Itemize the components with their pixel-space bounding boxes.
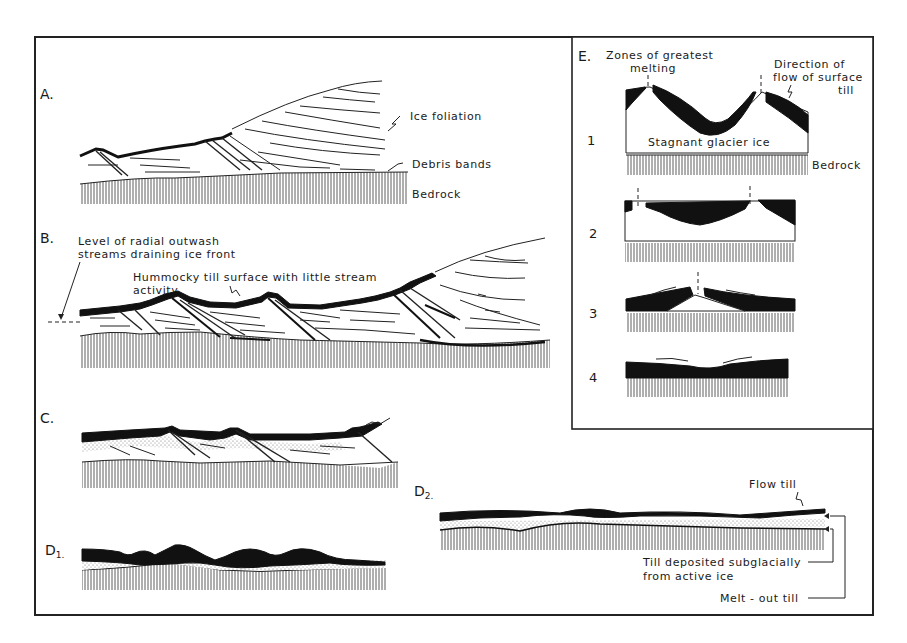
panel-c: C.	[40, 410, 398, 488]
bedrock-label-e: Bedrock	[812, 159, 861, 172]
ice-foliation-label: Ice foliation	[410, 110, 482, 123]
panel-e-label: E.	[578, 48, 591, 64]
stage-1-number: 1	[587, 133, 595, 148]
outwash-label-line2: streams draining ice front	[78, 248, 236, 261]
panel-b: B. Level of radial outwash streams drain…	[40, 230, 550, 368]
outwash-label-line1: Level of radial outwash	[78, 235, 219, 248]
direction-label-line2: flow of surface	[773, 71, 863, 84]
direction-label-line3: till	[838, 84, 854, 97]
panel-a-debris-bands	[88, 136, 375, 176]
direction-label-line1: Direction of	[774, 58, 846, 71]
panel-c-label: C.	[40, 410, 54, 426]
panel-d2: D2. Flow till Till deposited subglaciall…	[414, 478, 845, 605]
flow-till-leader	[796, 492, 803, 506]
zones-label-line2: melting	[630, 62, 676, 75]
panel-a: A.	[40, 81, 492, 204]
meltout-arrowhead	[824, 513, 829, 519]
glacial-deposition-diagram: A.	[0, 0, 907, 643]
hummocky-leader	[230, 286, 240, 296]
stage-2-number: 2	[589, 226, 597, 241]
stagnant-ice-label: Stagnant glacier ice	[648, 136, 770, 149]
subglacial-label-line2: from active ice	[643, 570, 734, 583]
debris-bands-leader	[388, 163, 403, 171]
panel-a-ice-foliation	[245, 89, 385, 155]
stage-3-bedrock	[626, 313, 795, 332]
hummocky-label-line1: Hummocky till surface with little stream	[133, 271, 377, 284]
meltout-label: Melt - out till	[720, 592, 799, 605]
stage-4-number: 4	[589, 370, 597, 385]
panel-d2-flow-till	[440, 509, 825, 521]
stage-1-bedrock	[626, 155, 808, 175]
panel-b-label: B.	[40, 230, 54, 246]
panel-d2-label: D2.	[414, 483, 433, 501]
panel-a-bedrock	[80, 172, 408, 204]
debris-bands-label: Debris bands	[412, 158, 492, 171]
stage-4-bedrock	[626, 378, 788, 397]
subglacial-label-line1: Till deposited subglacially	[642, 556, 801, 569]
panel-a-label: A.	[40, 86, 54, 102]
outwash-arrowhead	[58, 314, 64, 320]
panel-a-ice-surface	[232, 81, 382, 129]
outwash-leader	[61, 262, 80, 318]
bedrock-label-a: Bedrock	[412, 188, 461, 201]
stage-3-number: 3	[589, 306, 597, 321]
panel-b-ice-surface	[435, 238, 545, 272]
ice-foliation-leader	[388, 116, 400, 131]
panel-b-bedrock	[80, 332, 550, 368]
stage-2-bedrock	[625, 243, 795, 262]
flow-till-label: Flow till	[749, 478, 797, 491]
panel-d1-label: D1.	[45, 542, 64, 560]
panel-e: E. Zones of greatest melting Direction o…	[572, 37, 873, 429]
zones-label-line1: Zones of greatest	[606, 49, 714, 62]
panel-d1: D1.	[45, 542, 386, 590]
panel-b-ice-foliation	[440, 256, 540, 325]
